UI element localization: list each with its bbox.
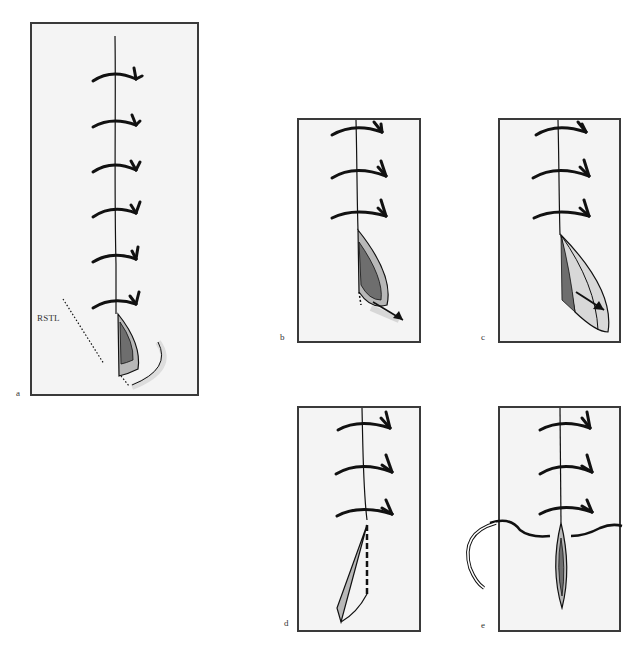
panel-b (297, 118, 421, 343)
panel-a-drawing (32, 24, 201, 398)
panel-label-c: c (481, 332, 485, 342)
panel-a: RSTL (30, 22, 199, 396)
panel-d (297, 406, 421, 632)
panel-label-b: b (280, 332, 285, 342)
panel-label-d: d (284, 618, 289, 628)
panel-c-drawing (500, 120, 623, 345)
panel-c (498, 118, 621, 343)
rstl-label: RSTL (37, 313, 60, 323)
panel-label-a: a (16, 388, 20, 398)
panel-b-drawing (299, 120, 423, 345)
panel-d-drawing (299, 408, 423, 634)
panel-e-drawing (500, 408, 623, 634)
panel-e (498, 406, 621, 632)
panel-label-e: e (481, 620, 485, 630)
